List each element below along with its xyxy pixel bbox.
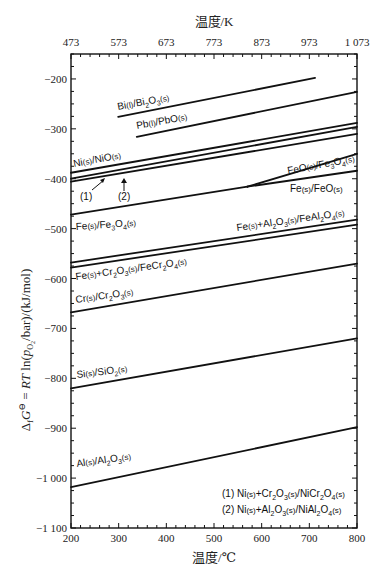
y-tick-label: −800 (44, 372, 67, 384)
label-fe-feo: Fe(s)/FeO(s) (290, 183, 343, 194)
legend-entry-2: (2) Ni(s)+Al2O3(s)/NiAl2O4(s) (222, 504, 342, 517)
x-tick-label: 300 (110, 532, 127, 544)
x-top-tick-labels: 4735736737738739731 073 (63, 36, 370, 48)
series-line (71, 187, 247, 215)
annotation-2-arrowhead (121, 178, 127, 183)
x-top-tick-label: 1 073 (345, 36, 370, 48)
svg-text:ΔfG⊖ = RT ln(pO2/bar)/(kJ/mol): ΔfG⊖ = RT ln(pO2/bar)/(kJ/mol) (17, 269, 36, 432)
x-top-tick-label: 673 (158, 36, 175, 48)
label-feo-fe3o4: FeO(s)/Fe3O4(s) (286, 153, 356, 178)
y-tick-label: −500 (44, 223, 67, 235)
x-top-axis-title: 温度/K (195, 14, 235, 29)
series-line (71, 338, 357, 388)
ellingham-diagram: 温度/K 4735736737738739731 073 −200−300−40… (0, 0, 389, 576)
x-top-tick-label: 873 (253, 36, 270, 48)
y-tick-label: −700 (44, 322, 67, 334)
x-tick-label: 400 (158, 532, 175, 544)
label-al: Al(s)/Al2O3(s) (76, 450, 132, 471)
x-top-tick-label: 473 (63, 36, 80, 48)
y-tick-label: −900 (44, 422, 67, 434)
x-tick-label: 800 (349, 532, 366, 544)
x-tick-label: 200 (63, 532, 80, 544)
annotation-2: (2) (118, 191, 130, 202)
x-top-tick-label: 573 (110, 36, 127, 48)
x-tick-label: 700 (301, 532, 318, 544)
y-axis-title: ΔfG⊖ = RT ln(pO2/bar)/(kJ/mol) (17, 269, 36, 432)
x-tick-label: 600 (253, 532, 270, 544)
y-tick-label: −200 (44, 73, 67, 85)
series-lines (71, 78, 357, 487)
x-tick-label: 500 (206, 532, 223, 544)
y-tick-label: −1 000 (36, 472, 67, 484)
label-feal2o4: Fe(s)+Al2O3(s)/FeAl2O4(s) (236, 207, 346, 235)
x-top-tick-label: 773 (206, 36, 223, 48)
label-bi: Bi(l)/Bi2O3(s) (116, 92, 170, 114)
annotation-1: (1) (80, 191, 92, 202)
x-bottom-tick-labels: 200300400500600700800 (63, 532, 366, 544)
legend-entry-1: (1) Ni(s)+Cr2O3(s)/NiCr2O4(s) (222, 488, 345, 501)
x-top-tick-label: 973 (301, 36, 318, 48)
y-tick-label: −600 (44, 273, 67, 285)
y-tick-labels: −200−300−400−500−600−700−800−900−1 000−1… (36, 73, 67, 534)
label-fe-fe3o4: Fe(s)/Fe3O4(s) (75, 217, 136, 234)
x-bottom-axis-title: 温度/℃ (192, 550, 236, 565)
y-tick-label: −400 (44, 173, 67, 185)
y-tick-label: −300 (44, 123, 67, 135)
